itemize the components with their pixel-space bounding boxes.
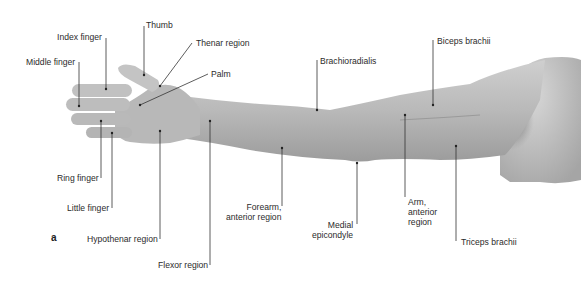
label-biceps-brachii: Biceps brachii bbox=[437, 36, 491, 46]
label-line: Medial bbox=[312, 220, 353, 230]
label-index-finger: Index finger bbox=[57, 32, 102, 42]
label-little-finger: Little finger bbox=[67, 203, 109, 213]
label-line: anterior region bbox=[226, 212, 281, 222]
label-line: Arm, bbox=[408, 197, 437, 207]
label-palm: Palm bbox=[211, 69, 231, 79]
label-forearm-anterior-region: Forearm, anterior region bbox=[226, 202, 281, 222]
label-medial-epicondyle: Medial epicondyle bbox=[312, 220, 353, 240]
label-line: epicondyle bbox=[312, 230, 353, 240]
label-ring-finger: Ring finger bbox=[57, 173, 99, 183]
label-line: anterior bbox=[408, 207, 437, 217]
label-thumb: Thumb bbox=[146, 20, 173, 30]
hand-shape bbox=[66, 64, 200, 143]
label-line: Forearm, bbox=[226, 202, 281, 212]
panel-letter: a bbox=[51, 232, 57, 243]
label-line: region bbox=[408, 217, 437, 227]
label-hypothenar-region: Hypothenar region bbox=[87, 234, 158, 244]
label-flexor-region: Flexor region bbox=[158, 260, 208, 270]
label-thenar-region: Thenar region bbox=[196, 38, 250, 48]
label-triceps-brachii: Triceps brachii bbox=[461, 237, 517, 247]
label-middle-finger: Middle finger bbox=[26, 57, 75, 67]
label-arm-anterior-region: Arm, anterior region bbox=[408, 197, 437, 227]
label-brachioradialis: Brachioradialis bbox=[320, 56, 376, 66]
